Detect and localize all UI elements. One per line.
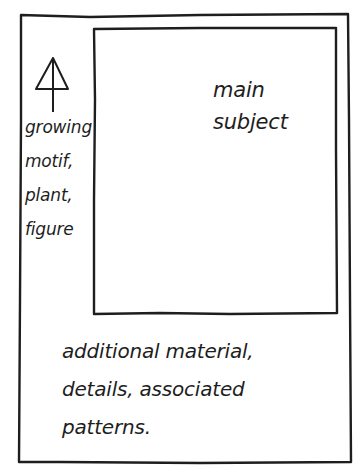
main-subject-box <box>94 28 337 314</box>
main-subject-label: main subject <box>213 74 288 138</box>
side-label-line: growing <box>25 110 92 144</box>
bottom-label-line: additional material, <box>62 332 254 370</box>
additional-material-label: additional material, details, associated… <box>62 332 254 446</box>
arrow-up-icon <box>36 58 68 112</box>
growing-motif-label: growing motif, plant, figure <box>25 110 92 246</box>
bottom-label-line: details, associated <box>62 370 254 408</box>
side-label-line: motif, <box>25 144 92 178</box>
side-label-line: figure <box>25 212 92 246</box>
side-label-line: plant, <box>25 178 92 212</box>
main-subject-line: subject <box>213 106 288 138</box>
bottom-label-line: patterns. <box>62 408 254 446</box>
main-subject-line: main <box>213 74 288 106</box>
